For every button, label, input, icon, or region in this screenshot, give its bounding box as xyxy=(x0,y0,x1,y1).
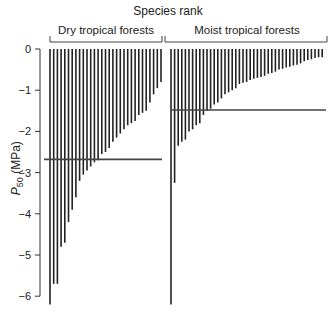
svg-text:−2: −2 xyxy=(18,125,31,137)
p50-bar-chart: 0−1−2−3−4−5−6 xyxy=(0,0,336,318)
svg-text:0: 0 xyxy=(25,43,31,55)
svg-text:−6: −6 xyxy=(18,290,31,302)
svg-text:−1: −1 xyxy=(18,84,31,96)
svg-text:−5: −5 xyxy=(18,249,31,261)
svg-text:−4: −4 xyxy=(18,208,31,220)
svg-text:−3: −3 xyxy=(18,167,31,179)
